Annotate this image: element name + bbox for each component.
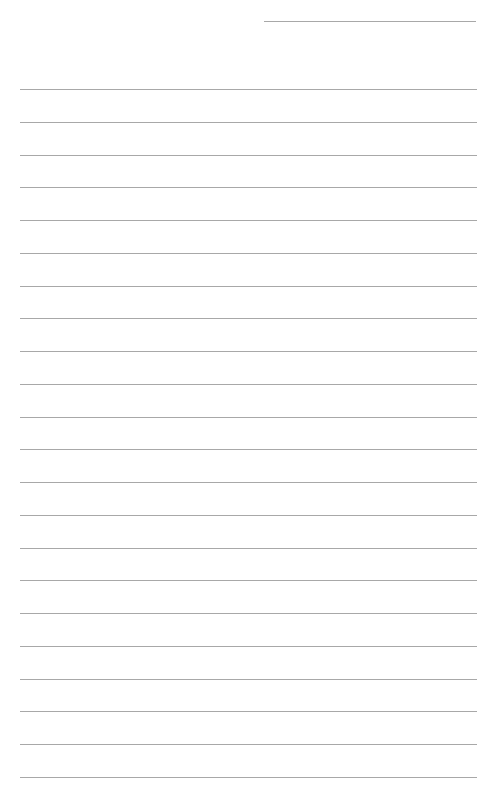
ruled-line <box>20 351 477 352</box>
ruled-line <box>20 777 477 778</box>
header-date-line <box>264 21 476 22</box>
ruled-line <box>20 417 477 418</box>
ruled-line <box>20 515 477 516</box>
ruled-line <box>20 482 477 483</box>
ruled-line <box>20 679 477 680</box>
ruled-line <box>20 89 477 90</box>
ruled-line <box>20 646 477 647</box>
ruled-line <box>20 384 477 385</box>
ruled-line <box>20 548 477 549</box>
ruled-line <box>20 318 477 319</box>
ruled-line <box>20 580 477 581</box>
ruled-line <box>20 744 477 745</box>
ruled-line <box>20 122 477 123</box>
ruled-line <box>20 220 477 221</box>
ruled-line <box>20 187 477 188</box>
lined-paper-page <box>0 0 497 799</box>
ruled-line <box>20 613 477 614</box>
ruled-line <box>20 253 477 254</box>
ruled-line <box>20 449 477 450</box>
ruled-line <box>20 711 477 712</box>
ruled-line <box>20 286 477 287</box>
ruled-line <box>20 155 477 156</box>
